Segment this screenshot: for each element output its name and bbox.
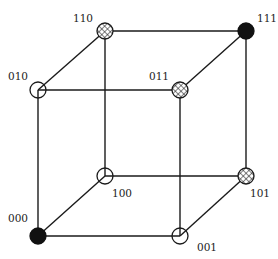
node-label-100: 100 (112, 187, 132, 199)
node-label-010: 010 (8, 70, 28, 82)
edge-010-110 (38, 31, 105, 90)
node-label-001: 001 (197, 241, 217, 253)
node-011-hatch-icon (172, 82, 188, 98)
node-label-110: 110 (73, 12, 93, 24)
node-101-hatch-icon (238, 168, 254, 184)
node-label-000: 000 (8, 212, 28, 224)
node-111-solid-icon (238, 23, 254, 39)
node-110-hatch-icon (97, 23, 113, 39)
node-000-solid-icon (30, 228, 46, 244)
edge-001-101 (180, 176, 246, 236)
node-010-open-icon (30, 82, 46, 98)
node-label-101: 101 (250, 187, 270, 199)
cube-labels: 000001010011100101110111 (8, 12, 277, 253)
node-001-open-icon (172, 228, 188, 244)
edge-011-111 (180, 31, 246, 90)
node-100-open-icon (97, 168, 113, 184)
node-label-111: 111 (257, 12, 277, 24)
node-label-011: 011 (149, 70, 169, 82)
edge-000-100 (38, 176, 105, 236)
cube-nodes (30, 23, 254, 244)
cube-diagram: 000001010011100101110111 (0, 0, 278, 259)
cube-edges (38, 31, 246, 236)
